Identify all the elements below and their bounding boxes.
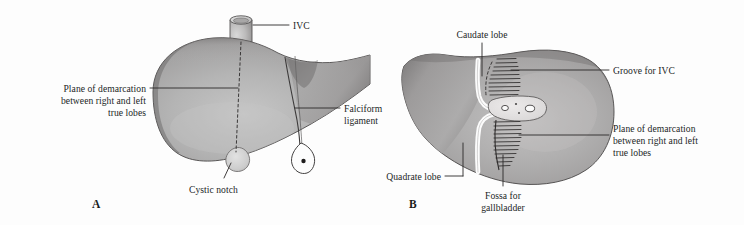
portal-vessel-1 xyxy=(502,105,509,110)
label-plane-b-line3: true lobes xyxy=(613,147,651,158)
label-plane-a-line1: Plane of demarcation xyxy=(63,83,146,94)
figure-canvas: IVC Plane of demarcation between right a… xyxy=(0,0,744,225)
label-plane-b-line1: Plane of demarcation xyxy=(613,123,696,134)
label-plane-a-line3: true lobes xyxy=(108,107,146,118)
label-caudate-lobe: Caudate lobe xyxy=(457,29,508,40)
liver-anatomy-figure: IVC Plane of demarcation between right a… xyxy=(0,0,744,225)
label-cystic-notch: Cystic notch xyxy=(189,184,238,195)
label-falciform-line2: ligament xyxy=(344,115,378,126)
label-groove-for-ivc: Groove for IVC xyxy=(613,65,675,76)
label-falciform-line1: Falciform xyxy=(344,103,383,114)
panel-letter-a: A xyxy=(92,198,101,210)
cystic-notch-shape xyxy=(226,147,250,171)
label-ivc: IVC xyxy=(293,20,310,31)
label-plane-b-line2: between right and left xyxy=(613,135,698,146)
portal-vessel-2 xyxy=(525,105,534,112)
label-fossa-line1: Fossa for xyxy=(485,190,522,201)
ligamentum-teres-lumen xyxy=(301,159,305,163)
label-fossa-line2: gallbladder xyxy=(481,202,525,213)
panel-letter-b: B xyxy=(409,198,417,210)
porta-hepatis xyxy=(488,96,546,121)
label-plane-a-line2: between right and left xyxy=(61,95,146,106)
label-quadrate-lobe: Quadrate lobe xyxy=(386,171,441,182)
